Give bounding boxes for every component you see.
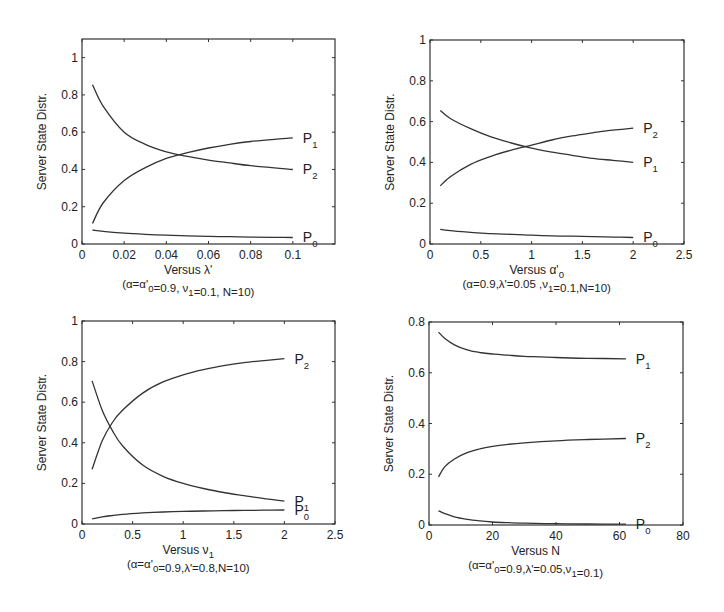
x-tick-label: 0 (79, 248, 86, 262)
axes-box (430, 40, 684, 244)
y-tick-label: 0.2 (409, 196, 426, 210)
series-label-p2: P2 (303, 161, 318, 181)
axes-box (82, 39, 335, 244)
x-tick-label: 40 (549, 529, 563, 543)
chart-panel-top-left: 00.020.040.060.080.100.20.40.60.81Server… (35, 39, 335, 298)
x-tick-label: 2.5 (676, 248, 693, 262)
x-tick-label: 1 (528, 248, 535, 262)
x-tick-label: 60 (613, 529, 627, 543)
series-line-p0 (92, 510, 284, 519)
y-tick-label: 0.6 (408, 366, 425, 380)
series-label-p2: P2 (294, 351, 309, 371)
y-axis-label: Server State Distr. (383, 93, 397, 190)
y-tick-label: 0.8 (61, 355, 78, 369)
x-tick-label: 0 (426, 529, 433, 543)
x-axis-label: Versus ν1 (163, 543, 214, 560)
figure: 00.020.040.060.080.100.20.40.60.81Server… (0, 0, 724, 612)
series-line-p1 (440, 110, 633, 162)
x-tick-label: 0.04 (155, 248, 179, 262)
y-axis-label: Server State Distr. (35, 93, 49, 190)
series-label-p2: P2 (643, 120, 658, 140)
series-label-p0: P0 (303, 229, 318, 249)
series-label-p2: P2 (636, 430, 651, 450)
x-tick-label: 0.08 (239, 248, 263, 262)
y-tick-label: 0.2 (61, 476, 78, 490)
series-label-p0: P0 (643, 229, 658, 249)
series-line-p1 (93, 138, 293, 224)
y-axis-label: Server State Distr. (382, 375, 396, 472)
x-tick-label: 1.5 (574, 248, 591, 262)
chart-panel-top-right: 00.511.522.500.20.40.60.81Server State D… (383, 33, 693, 294)
y-tick-label: 0.6 (61, 125, 78, 139)
y-tick-label: 0.8 (409, 74, 426, 88)
series-line-p1 (439, 332, 626, 359)
parameter-caption: (α=0.9,λ'=0.05 ,ν1=0.1,N=10) (462, 278, 611, 294)
x-axis-label: Versus λ' (164, 263, 212, 277)
x-tick-label: 0.02 (112, 248, 136, 262)
y-tick-label: 0.4 (61, 436, 78, 450)
series-line-p2 (439, 439, 626, 477)
x-tick-label: 1.5 (225, 528, 242, 542)
y-tick-label: 0.2 (408, 467, 425, 481)
series-line-p2 (92, 359, 284, 470)
y-tick-label: 0.4 (61, 162, 78, 176)
series-label-p1: P1 (303, 130, 318, 150)
series-label-p1: P1 (636, 351, 651, 371)
x-tick-label: 0.5 (472, 248, 489, 262)
y-tick-label: 1 (71, 314, 78, 328)
y-tick-label: 0.8 (61, 88, 78, 102)
y-tick-label: 1 (71, 51, 78, 65)
x-tick-label: 2.5 (327, 528, 344, 542)
y-tick-label: 1 (419, 33, 426, 47)
parameter-caption: (α=α'0=0.9, ν1=0.1, N=10) (122, 278, 254, 298)
y-tick-label: 0.6 (61, 395, 78, 409)
chart-panel-bottom-right: 02040608000.20.40.60.8Server State Distr… (382, 315, 690, 579)
y-tick-label: 0 (71, 237, 78, 251)
y-tick-label: 0.8 (408, 315, 425, 329)
y-tick-label: 0.6 (409, 115, 426, 129)
series-label-p0: P0 (636, 516, 651, 536)
series-line-p2 (93, 85, 293, 170)
x-axis-label: Versus N (511, 544, 560, 558)
x-tick-label: 2 (630, 248, 637, 262)
series-label-p1: P1 (643, 154, 658, 174)
x-tick-label: 0 (79, 528, 86, 542)
series-line-p0 (93, 230, 293, 238)
series-line-p0 (439, 511, 626, 524)
y-tick-label: 0.4 (409, 155, 426, 169)
x-tick-label: 0 (427, 248, 434, 262)
y-tick-label: 0 (418, 518, 425, 532)
x-tick-label: 0.06 (197, 248, 221, 262)
x-tick-label: 2 (281, 528, 288, 542)
parameter-caption: (α=α'0=0.9,λ'=0.8,N=10) (127, 558, 250, 574)
parameter-caption: (α=α'0=0.9,λ'=0.05,ν1=0.1) (468, 559, 603, 579)
chart-panel-bottom-left: 00.511.522.500.20.40.60.81Server State D… (35, 314, 344, 574)
series-line-p2 (440, 128, 633, 186)
y-axis-label: Server State Distr. (35, 374, 49, 471)
y-tick-label: 0.4 (408, 417, 425, 431)
y-tick-label: 0.2 (61, 200, 78, 214)
x-tick-label: 1 (180, 528, 187, 542)
y-tick-label: 0 (71, 517, 78, 531)
x-tick-label: 0.5 (124, 528, 141, 542)
x-tick-label: 20 (486, 529, 500, 543)
x-tick-label: 0.1 (284, 248, 301, 262)
series-line-p0 (440, 229, 633, 237)
x-tick-label: 80 (676, 529, 690, 543)
y-tick-label: 0 (419, 237, 426, 251)
series-line-p1 (92, 381, 284, 501)
